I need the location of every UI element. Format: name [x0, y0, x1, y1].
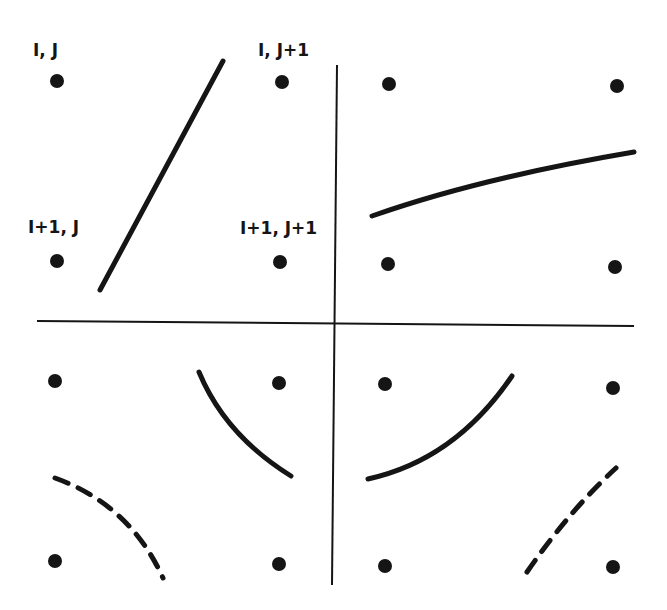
- solid-contour-line: [100, 61, 223, 290]
- grid-node-dot: [48, 374, 62, 388]
- dashed-contour-line: [55, 478, 163, 578]
- grid-node-dot: [272, 376, 286, 390]
- vertical-divider: [332, 65, 337, 585]
- quadrant-top-right: [372, 77, 634, 274]
- grid-node-dot: [275, 75, 289, 89]
- label-i-j: I, J: [33, 40, 58, 60]
- dashed-contour-line: [527, 468, 616, 572]
- grid-node-dot: [50, 254, 64, 268]
- grid-node-dot: [50, 74, 64, 88]
- solid-contour-line: [368, 376, 512, 479]
- grid-node-dot: [606, 560, 620, 574]
- quadrant-dividers: [37, 65, 634, 585]
- grid-node-dot: [273, 255, 287, 269]
- grid-node-dot: [48, 554, 62, 568]
- grid-node-dot: [272, 557, 286, 571]
- label-i-plus-1-j: I+1, J: [28, 217, 79, 237]
- quadrant-bottom-left: [48, 372, 291, 578]
- grid-node-dot: [608, 260, 622, 274]
- grid-node-dot: [378, 559, 392, 573]
- grid-node-dot: [378, 377, 392, 391]
- label-i-plus-1-j-plus-1: I+1, J+1: [240, 218, 317, 238]
- grid-node-dot: [382, 77, 396, 91]
- quadrants: [48, 61, 634, 578]
- contour-cell-diagram: [0, 0, 667, 610]
- label-i-j-plus-1: I, J+1: [258, 40, 309, 60]
- grid-node-dot: [381, 257, 395, 271]
- solid-contour-line: [372, 152, 634, 216]
- grid-node-dot: [610, 79, 624, 93]
- grid-node-dot: [606, 381, 620, 395]
- quadrant-top-left: [50, 61, 289, 290]
- quadrant-bottom-right: [368, 376, 620, 574]
